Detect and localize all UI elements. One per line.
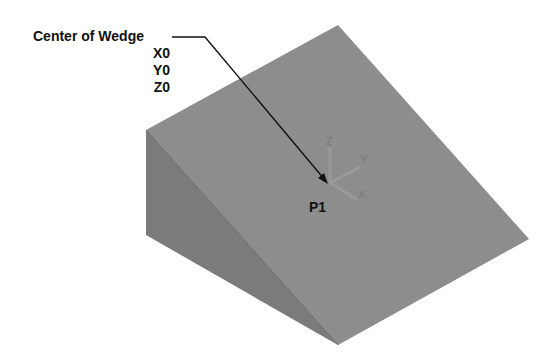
callout-coordinates: X0 Y0 Z0 [33, 45, 170, 96]
point-label-p1: P1 [309, 199, 326, 216]
coord-x: X0 [33, 45, 170, 62]
coord-z: Z0 [33, 79, 170, 96]
axis-y-label: Y [360, 153, 368, 165]
callout-title: Center of Wedge [33, 28, 144, 45]
wedge-slope-face [146, 25, 529, 345]
axis-x-label: X [358, 188, 366, 200]
coord-y: Y0 [33, 62, 170, 79]
axis-z-label: Z [326, 135, 333, 147]
